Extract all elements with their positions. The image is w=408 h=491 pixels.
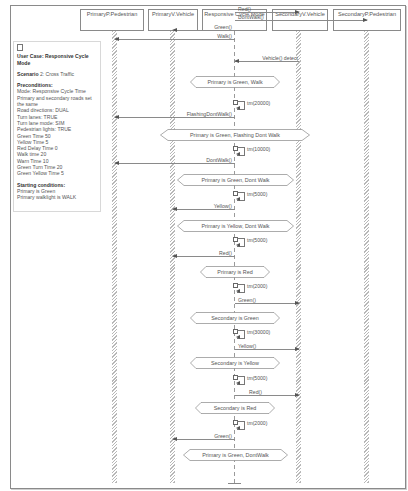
message-vehicle-detect: Vehicle() detect [235,61,299,62]
state-primary-green-walk: Primary is Green, Walk [190,76,280,88]
message-walk: Walk() [115,39,235,40]
note-precondition: Primary and secondary roads set the same [17,95,97,108]
message-green: Green() [173,439,235,440]
note-title: User Case: Responsive Cycle Mode [17,53,97,66]
state-secondary-green: Secondary is Green [190,312,280,324]
lifeline-end-marker [228,483,241,484]
message-dontwalk: DontWalk() [235,20,367,21]
message-red: Red() [235,12,299,13]
state-primary-green-dontwalk: Primary is Green, Dont Walk [177,174,294,186]
message-yellow: Yellow() [173,209,235,210]
message-flashing-dontwalk: FlashingDontWalk() [115,117,235,118]
message-dontwalk: DontWalk() [115,163,235,164]
message-yellow: Yellow() [235,349,299,350]
note-precondition: Mode: Responsive Cycle Time [17,88,97,94]
message-green: Green() [235,303,299,304]
lifeline-header-primary-pedestrian: PrimaryP.Pedestrian [80,9,144,31]
message-green: Green() [173,30,235,31]
state-primary-yellow-dontwalk: Primary is Yellow, Dont Walk [177,220,294,232]
lifeline-primary-pedestrian [112,31,117,483]
note-starting-condition: Primary walklight is WALK [17,194,97,200]
state-primary-green-flashing-dontwalk: Primary is Green, Flashing Dont Walk [160,129,310,141]
state-secondary-red: Secondary is Red [195,402,275,414]
state-primary-green-dontwalk-final: Primary is Green, DontWalk [183,449,288,461]
message-red: Red() [173,256,235,257]
message-red: Red() [235,395,299,396]
lifeline-secondary-pedestrian [364,31,369,483]
note-icon [17,44,23,51]
state-secondary-yellow: Secondary is Yellow [190,357,280,369]
lifeline-secondary-vehicle [296,31,301,483]
use-case-note: User Case: Responsive Cycle Mode Scenari… [13,41,101,212]
state-primary-red: Primary is Red [200,266,270,278]
lifeline-responsive-cycle-mode [234,31,235,483]
